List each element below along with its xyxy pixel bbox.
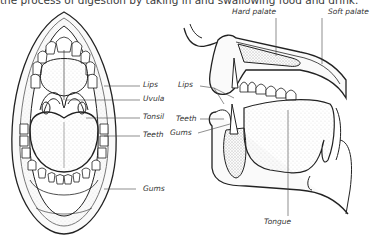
label-teeth-front: Teeth <box>143 131 164 139</box>
label-soft-palate: Soft palate <box>328 8 369 16</box>
label-lips-front: Lips <box>143 81 158 89</box>
label-hard-palate: Hard palate <box>232 8 276 16</box>
label-gums-front: Gums <box>143 185 165 193</box>
front-view-drawing <box>12 12 116 234</box>
label-gums-side: Gums <box>170 129 192 137</box>
label-tonsil: Tonsil <box>143 113 164 121</box>
label-tongue: Tongue <box>264 218 291 226</box>
label-uvula: Uvula <box>143 95 164 103</box>
label-lips-side: Lips <box>178 81 193 89</box>
label-teeth-side: Teeth <box>176 115 197 123</box>
